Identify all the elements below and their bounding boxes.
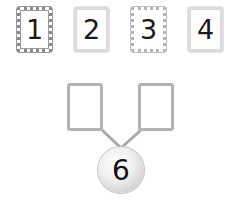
part-left-slot[interactable] xyxy=(67,83,103,131)
whole-circle: 6 xyxy=(98,147,144,193)
part-right-slot[interactable] xyxy=(138,83,174,131)
whole-value: 6 xyxy=(112,154,130,187)
